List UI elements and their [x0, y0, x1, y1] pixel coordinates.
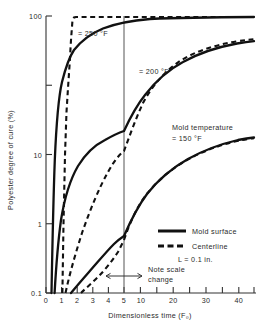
y-tick-1: 1: [38, 220, 42, 229]
y-tick-labels: 100 10 1 0.1: [29, 12, 42, 298]
x-tick-4: 4: [106, 296, 110, 305]
annotation-200f: = 200 °F: [139, 67, 169, 76]
x-tick-labels: 0 1 2 3 4 5 10 20 30 40: [44, 296, 243, 305]
legend-note-thickness: L = 0.1 in.: [178, 255, 213, 264]
annotation-250f: = 250 °F: [78, 29, 108, 38]
x-ticks: [46, 287, 254, 293]
x-tick-3: 3: [91, 296, 95, 305]
legend-label-mold-surface: Mold surface: [192, 227, 237, 236]
x-tick-40: 40: [234, 296, 243, 305]
y-tick-10: 10: [33, 151, 42, 160]
polyester-cure-chart: Polyester degree of cure (%) 100 10 1 0.…: [0, 0, 266, 336]
x-tick-5: 5: [122, 296, 126, 305]
legend: Mold surface Centerline L = 0.1 in.: [158, 227, 237, 264]
curve-250f-mold-surface: [52, 17, 255, 293]
annotation-note-scale-line2: change: [148, 275, 173, 284]
x-tick-30: 30: [202, 296, 211, 305]
y-tick-0-1: 0.1: [31, 289, 42, 298]
y-tick-100: 100: [29, 12, 42, 21]
curve-200f-mold-surface: [55, 41, 254, 293]
chart-figure: Polyester degree of cure (%) 100 10 1 0.…: [0, 0, 266, 336]
scale-change-annotation: Note scale change: [106, 265, 185, 284]
x-tick-0: 0: [44, 296, 48, 305]
x-axis-label: Dimensionless time (F₀): [108, 311, 191, 320]
annotation-mold-temperature: Mold temperature: [172, 123, 233, 132]
legend-label-centerline: Centerline: [192, 242, 228, 251]
curve-250f-centerline: [62, 17, 254, 293]
x-tick-10: 10: [137, 296, 146, 305]
annotation-note-scale-line1: Note scale: [148, 265, 185, 274]
y-axis-label: Polyester degree of cure (%): [6, 110, 15, 210]
axis-lines: [46, 16, 256, 293]
x-tick-1: 1: [59, 296, 63, 305]
x-tick-20: 20: [169, 296, 178, 305]
x-tick-2: 2: [75, 296, 79, 305]
y-ticks: [46, 16, 52, 293]
annotation-150f: = 150 °F: [172, 134, 202, 143]
